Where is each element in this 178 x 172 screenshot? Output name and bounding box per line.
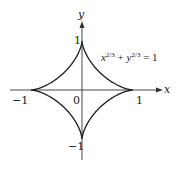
y-axis-arrow-icon: [80, 21, 85, 28]
equation-x-exponent: 2/3: [106, 51, 115, 59]
astroid-figure: y x 1 −1 −1 0 1 x2/3 + y2/3 = 1: [0, 0, 178, 172]
plot-canvas: [0, 0, 178, 172]
x-axis-label: x: [164, 84, 170, 95]
x-neg-tick-label: −1: [12, 95, 28, 106]
equation-label: x2/3 + y2/3 = 1: [101, 52, 158, 63]
x-pos-tick-label: 1: [136, 95, 143, 106]
y-pos-tick-label: 1: [74, 35, 81, 46]
origin-label: 0: [73, 95, 80, 106]
equation-plus: +: [115, 51, 127, 63]
y-neg-tick-label: −1: [68, 141, 84, 152]
equation-rhs: = 1: [140, 51, 157, 63]
y-axis-label: y: [78, 9, 84, 20]
x-axis-arrow-icon: [156, 88, 163, 93]
